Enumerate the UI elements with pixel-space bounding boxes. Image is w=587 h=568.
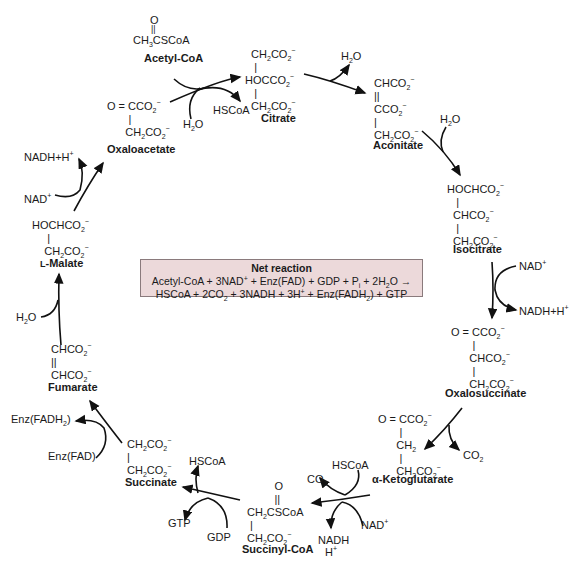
- net-reaction-line2: HSCoA + 2CO2 + 3NADH + 3H+ + Enz(FADH2) …: [141, 288, 422, 301]
- h2o-in-label: H2O: [440, 113, 460, 125]
- h2o-label: H2O: [183, 118, 203, 130]
- fumarate-structure: CHCO2− || CHCO2−: [51, 343, 91, 382]
- nadh-label: NADH+H+: [24, 151, 74, 163]
- oxaloacetate-label: Oxaloacetate: [107, 143, 175, 155]
- acetyl-coa-formula: CH3CSCoA: [133, 34, 189, 47]
- alpha-ketoglutarate-label: α-Ketoglutarate: [372, 473, 453, 485]
- hscoa-label: HSCoA: [332, 459, 369, 471]
- isocitrate-label: Isocitrate: [453, 243, 502, 255]
- net-reaction-line1: Acetyl-CoA + 3NAD+ + Enz(FAD) + GDP + Pi…: [141, 275, 422, 288]
- enz-fadh2-label: Enz(FADH2): [11, 413, 71, 425]
- h2o-label: H2O: [16, 311, 36, 323]
- net-reaction-title: Net reaction: [141, 262, 422, 275]
- aconitate-label: Aconitate: [373, 139, 423, 151]
- nad-label: NAD+: [361, 519, 388, 531]
- hscoa-label: HSCoA: [189, 455, 226, 467]
- oxalosuccinate-label: Oxalosuccinate: [445, 387, 526, 399]
- succinyl-coa-label: Succinyl-CoA: [242, 543, 314, 555]
- succinate-label: Succinate: [125, 476, 177, 488]
- oxalosuccinate-structure: O = CCO2− | CHCO2− | CH2CO2−: [451, 326, 514, 391]
- fumarate-label: Fumarate: [48, 381, 98, 393]
- isocitrate-structure: HOCHCO2− | CHCO2− | CH2CO2−: [447, 183, 504, 248]
- citrate-label: Citrate: [261, 112, 296, 124]
- hscoa-label: HSCoA: [213, 104, 250, 116]
- citrate-structure: CH2CO2− | HOCCO2− | CH2CO2−: [245, 48, 295, 113]
- alpha-ketoglutarate-structure: O = CCO2− | CH2 | CH2CO2−: [378, 413, 441, 478]
- gtp-label: GTP: [168, 517, 191, 529]
- acetyl-coa-label: Acetyl-CoA: [144, 52, 203, 64]
- oxaloacetate-structure: O = CCO2− | CH2CO2−: [107, 100, 170, 139]
- nadh-label: NADH: [318, 534, 349, 546]
- gdp-label: GDP: [207, 531, 231, 543]
- enz-fad-label: Enz(FAD): [48, 450, 96, 462]
- net-reaction-box: Net reaction Acetyl-CoA + 3NAD+ + Enz(FA…: [140, 259, 423, 297]
- succinate-structure: CH2CO2− | CH2CO2−: [127, 438, 171, 477]
- h-plus-label: H+: [325, 546, 337, 558]
- h2o-out-label: H2O: [341, 50, 361, 62]
- nad-label: NAD+: [519, 260, 546, 272]
- succinyl-coa-structure: O || CH2CSCoA | CH2CO2−: [247, 480, 303, 545]
- co2-label: CO2: [463, 449, 483, 461]
- nadh-label: NADH+H+: [519, 305, 569, 317]
- aconitate-structure: CHCO2− || CCO2− | CH2CO2−: [374, 77, 418, 142]
- co2-label: CO2: [307, 473, 327, 485]
- l-malate-structure: HOCHCO2− | CH2CO2−: [32, 219, 89, 258]
- nad-label: NAD+: [24, 193, 51, 205]
- l-malate-label: L-Malate: [40, 257, 83, 269]
